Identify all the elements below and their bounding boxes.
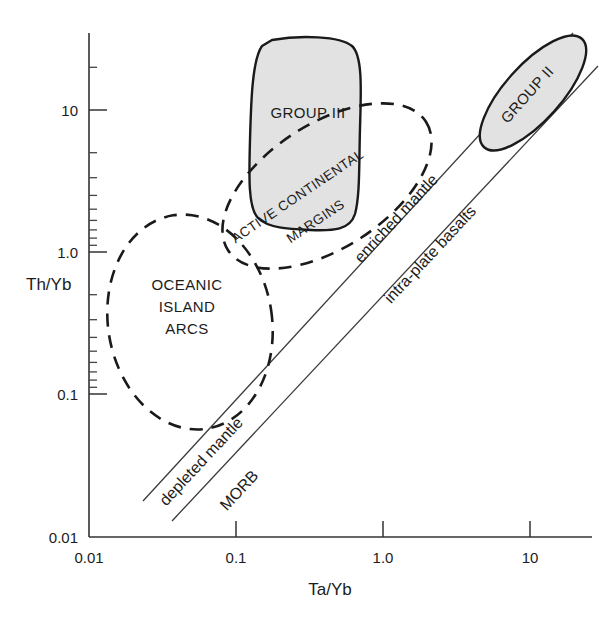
field-group-ii: GROUP II (463, 20, 602, 166)
group-iii-outline (249, 37, 360, 230)
oceanic-island-arcs-label-line1: OCEANIC (151, 276, 222, 293)
field-group-iii: GROUP III (249, 37, 360, 230)
y-tick-label-1.0: 1.0 (57, 244, 78, 261)
y-axis-title: Th/Yb (26, 275, 71, 294)
y-tick-label-0.1: 0.1 (57, 386, 78, 403)
oceanic-island-arcs-label-line3: ARCS (165, 320, 208, 337)
oceanic-island-arcs-label-line2: ISLAND (159, 298, 216, 315)
y-tick-label-0.01: 0.01 (49, 529, 78, 546)
x-tick-label-1.0: 1.0 (373, 549, 394, 566)
group-iii-label: GROUP III (270, 104, 345, 121)
x-tick-label-0.1: 0.1 (226, 549, 247, 566)
y-tick-label-10: 10 (61, 102, 78, 119)
x-axis-title: Ta/Yb (308, 580, 351, 599)
x-tick-label-10: 10 (522, 549, 539, 566)
chart-canvas: 10 1.0 0.1 0.01 0.01 0.1 1.0 10 Th/Yb Ta… (0, 0, 612, 619)
th-yb-ta-yb-discrimination-diagram: 10 1.0 0.1 0.01 0.01 0.1 1.0 10 Th/Yb Ta… (0, 0, 612, 619)
field-oceanic-island-arcs: OCEANIC ISLAND ARCS (92, 203, 288, 442)
morb-label: MORB (216, 467, 261, 514)
x-tick-label-0.01: 0.01 (74, 549, 103, 566)
